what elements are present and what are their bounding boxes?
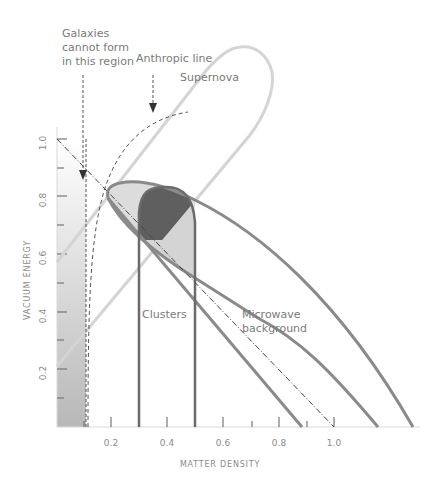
microwave-label-line: Microwave: [242, 308, 307, 322]
anthropic-annotation: Anthropic line: [136, 52, 212, 66]
galaxies-annotation-line: in this region: [62, 55, 134, 69]
galaxies-annotation-line: Galaxies: [62, 27, 134, 41]
svg-text:0.4: 0.4: [38, 309, 48, 324]
x-axis-title: MATTER DENSITY: [180, 460, 260, 469]
anthropic-arrow-icon: [149, 75, 157, 113]
svg-text:0.2: 0.2: [104, 438, 118, 448]
svg-text:0.8: 0.8: [272, 438, 287, 448]
svg-text:0.8: 0.8: [38, 193, 48, 208]
svg-text:0.6: 0.6: [38, 251, 48, 266]
microwave-label-line: background: [242, 322, 307, 336]
svg-text:0.2: 0.2: [38, 366, 48, 380]
microwave-label: Microwave background: [242, 308, 307, 336]
svg-text:0.6: 0.6: [216, 438, 231, 448]
supernova-label: Supernova: [180, 71, 239, 85]
galaxies-annotation: Galaxies cannot form in this region: [62, 27, 134, 69]
clusters-label: Clusters: [142, 308, 187, 322]
svg-text:1.0: 1.0: [327, 438, 342, 448]
x-tick-labels: 0.2 0.4 0.6 0.8 1.0: [104, 438, 342, 448]
galaxies-annotation-line: cannot form: [62, 41, 134, 55]
svg-text:1.0: 1.0: [38, 136, 48, 151]
y-tick-labels: 0.2 0.4 0.6 0.8 1.0: [38, 136, 48, 381]
svg-text:0.4: 0.4: [160, 438, 175, 448]
y-axis-title: VACUUM ENERGY: [23, 240, 32, 320]
